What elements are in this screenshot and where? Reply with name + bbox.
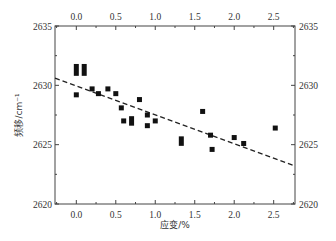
x-tick-label-top: 2.0 [228, 12, 240, 22]
data-point [273, 126, 278, 131]
data-point [129, 116, 134, 125]
data-point [210, 147, 215, 152]
x-tick-label-top: 1.0 [149, 12, 161, 22]
y-tick-label-left: 2635 [33, 22, 52, 32]
x-tick-label-top: 0.5 [110, 12, 122, 22]
data-points [74, 64, 278, 152]
y-tick-label-right: 2625 [299, 140, 318, 150]
data-point [208, 133, 213, 138]
x-tick-label-bottom: 2.5 [268, 210, 280, 220]
data-point [153, 118, 158, 123]
data-point [241, 141, 246, 146]
x-tick-label-top: 1.5 [189, 12, 201, 22]
x-tick-label-bottom: 2.0 [228, 210, 240, 220]
x-tick-label-bottom: 0.5 [110, 210, 122, 220]
plot-frame [55, 26, 295, 204]
tick-labels: 0.00.00.50.51.01.01.51.52.02.02.52.52620… [33, 12, 318, 220]
x-tick-label-bottom: 0.0 [70, 210, 82, 220]
y-axis-title: 频移/cm⁻¹ [13, 93, 24, 136]
data-point [74, 64, 79, 76]
data-point [119, 105, 124, 110]
data-point [179, 136, 184, 145]
y-tick-label-right: 2630 [299, 81, 318, 91]
data-point [105, 86, 110, 91]
data-point [200, 109, 205, 114]
data-point [113, 91, 118, 96]
y-tick-label-right: 2620 [299, 200, 318, 210]
y-tick-label-left: 2630 [33, 81, 52, 91]
y-tick-label-left: 2625 [33, 140, 52, 150]
data-point [145, 113, 150, 118]
x-tick-label-bottom: 1.0 [149, 210, 161, 220]
data-point [145, 123, 150, 128]
data-point [121, 118, 126, 123]
x-axis-title: 应变/% [160, 219, 190, 230]
x-tick-label-top: 0.0 [70, 12, 82, 22]
data-point [232, 135, 237, 140]
x-tick-label-bottom: 1.5 [189, 210, 201, 220]
chart: 0.00.00.50.51.01.01.51.52.02.02.52.52620… [0, 0, 336, 241]
data-point [74, 92, 79, 97]
y-tick-label-right: 2635 [299, 22, 318, 32]
plot-border [55, 26, 295, 204]
y-tick-label-left: 2620 [33, 200, 52, 210]
data-point [90, 86, 95, 91]
x-tick-label-top: 2.5 [268, 12, 280, 22]
data-point [96, 91, 101, 96]
data-point [137, 97, 142, 102]
axis-ticks [55, 26, 295, 204]
data-point [82, 64, 87, 76]
